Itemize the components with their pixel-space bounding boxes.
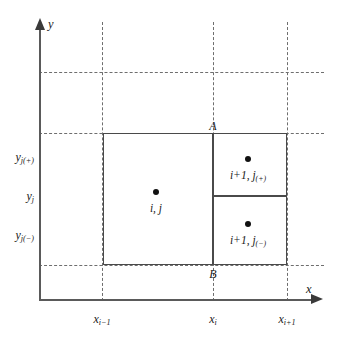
node-label-i-j: i, j bbox=[150, 203, 162, 215]
x-axis-arrow-icon bbox=[311, 294, 323, 304]
y-axis-arrow-icon bbox=[35, 18, 45, 30]
y-tick-label-j-sub: j bbox=[32, 195, 34, 204]
x-tick-label-i-plus-1-sub: i+1 bbox=[284, 318, 296, 327]
node-dot-i-plus-1-j-plus bbox=[245, 156, 251, 162]
face-point-label-b: B bbox=[209, 268, 216, 280]
x-tick-label-i-minus-1: xi−1 bbox=[93, 313, 110, 327]
node-dot-i-j bbox=[153, 189, 159, 195]
cell-box-i-j bbox=[103, 133, 213, 265]
gridline-horizontal-bottom-face bbox=[39, 265, 324, 266]
x-tick-label-i: xi bbox=[209, 313, 217, 327]
x-tick-label-i-plus-1: xi+1 bbox=[278, 313, 295, 327]
face-divider-ab bbox=[212, 133, 214, 265]
y-tick-label-j-plus: yj(+) bbox=[15, 151, 34, 165]
y-tick-label-j-minus-sub: j(−) bbox=[21, 234, 34, 243]
gridline-horizontal-upper bbox=[39, 72, 324, 73]
node-dot-i-plus-1-j-minus bbox=[245, 221, 251, 227]
y-axis-label: y bbox=[48, 18, 54, 31]
face-point-label-a: A bbox=[209, 120, 216, 132]
x-axis-label: x bbox=[306, 283, 312, 296]
cell-box-i-plus-1-j-minus bbox=[213, 196, 287, 265]
x-tick-label-i-minus-1-sub: i−1 bbox=[99, 318, 111, 327]
x-axis bbox=[39, 299, 315, 301]
y-tick-label-j: yj bbox=[26, 190, 34, 204]
y-tick-label-j-plus-sub: j(+) bbox=[21, 156, 34, 165]
cell-box-i-plus-1-j-plus bbox=[213, 133, 287, 196]
node-label-i-plus-1-j-minus: i+1, j(−) bbox=[230, 235, 266, 248]
gridline-vertical-x-i-plus-1 bbox=[287, 22, 288, 301]
node-label-i-j-text: i, j bbox=[150, 202, 162, 214]
y-tick-label-j-minus: yj(−) bbox=[15, 229, 34, 243]
y-axis bbox=[39, 28, 41, 300]
node-label-i-plus-1-j-minus-sub: (−) bbox=[256, 239, 266, 248]
grid-cell-diagram: y x i, j i+1, j(+) i+1, j(−) A B yj(+) y… bbox=[0, 0, 341, 339]
node-label-i-plus-1-j-minus-text: i+1, j bbox=[230, 234, 256, 246]
x-tick-label-i-sub: i bbox=[215, 318, 217, 327]
node-label-i-plus-1-j-plus-sub: (+) bbox=[256, 174, 266, 183]
node-label-i-plus-1-j-plus-text: i+1, j bbox=[230, 169, 256, 181]
sub-cell-horizontal-divider bbox=[213, 195, 287, 197]
node-label-i-plus-1-j-plus: i+1, j(+) bbox=[230, 170, 266, 183]
